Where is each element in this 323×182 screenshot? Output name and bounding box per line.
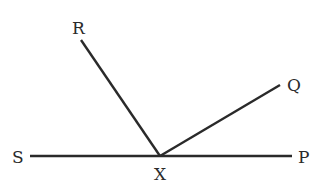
- label-p: P: [298, 147, 309, 167]
- ray-xq: [160, 85, 280, 156]
- label-r: R: [72, 18, 86, 38]
- label-s: S: [12, 147, 24, 167]
- label-x: X: [154, 164, 167, 182]
- ray-xr: [81, 40, 160, 156]
- label-q: Q: [287, 75, 301, 95]
- angle-diagram: R Q S P X: [0, 0, 323, 182]
